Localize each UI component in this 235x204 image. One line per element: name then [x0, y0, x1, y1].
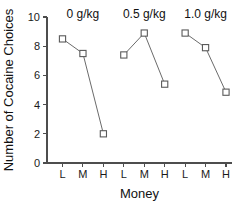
y-axis-title: Number of Cocaine Choices — [1, 8, 16, 171]
x-axis-tick-label: L — [59, 168, 65, 180]
series-line-group-2 — [124, 33, 165, 84]
x-axis-tick-label: L — [121, 168, 127, 180]
x-axis-tick-label: H — [161, 168, 169, 180]
data-point-marker — [100, 131, 106, 137]
data-point-marker — [182, 30, 188, 36]
group-label-3: 1.0 g/kg — [184, 7, 227, 21]
x-axis-tick-label: L — [182, 168, 188, 180]
group-label-1: 0 g/kg — [67, 7, 100, 21]
data-point-marker — [162, 81, 168, 87]
y-axis-tick-label: 2 — [34, 128, 40, 140]
data-point-marker — [59, 36, 65, 42]
data-point-marker — [223, 89, 229, 95]
y-axis-tick-label: 10 — [28, 11, 40, 23]
x-axis-tick-label: M — [78, 168, 87, 180]
y-axis-tick-label: 4 — [34, 99, 40, 111]
y-axis-tick-label: 8 — [34, 40, 40, 52]
data-point-marker — [80, 50, 86, 56]
x-axis-title: Money — [120, 186, 160, 201]
cocaine-choices-line-chart: 0246810LMHLMHLMH0 g/kg0.5 g/kg1.0 g/kgMo… — [0, 0, 235, 204]
y-axis-tick-label: 0 — [34, 157, 40, 169]
data-point-marker — [141, 30, 147, 36]
group-label-2: 0.5 g/kg — [123, 7, 166, 21]
x-axis-tick-label: M — [201, 168, 210, 180]
y-axis-tick-label: 6 — [34, 69, 40, 81]
chart-figure: 0246810LMHLMHLMH0 g/kg0.5 g/kg1.0 g/kgMo… — [0, 0, 235, 204]
x-axis-tick-label: H — [99, 168, 107, 180]
x-axis-tick-label: H — [222, 168, 230, 180]
data-point-marker — [202, 45, 208, 51]
x-axis-tick-label: M — [140, 168, 149, 180]
data-point-marker — [121, 52, 127, 58]
series-line-group-3 — [185, 33, 226, 92]
